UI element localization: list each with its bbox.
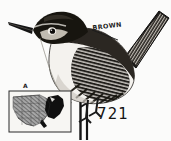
bird-head <box>8 12 88 44</box>
illustration-plate: BROWN 721 A <box>0 0 171 141</box>
range-map-inset <box>9 91 71 132</box>
bird-bill <box>8 22 33 34</box>
bird-plate-artwork <box>0 0 171 141</box>
